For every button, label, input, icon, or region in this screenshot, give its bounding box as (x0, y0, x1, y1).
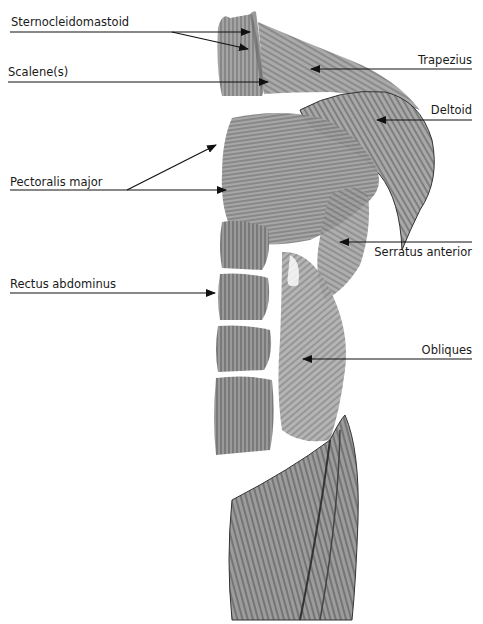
torso-illustration (0, 0, 483, 624)
rectus-abdominus-muscle (214, 221, 274, 455)
label-sternocleidomastoid: Sternocleidomastoid (11, 17, 129, 29)
label-deltoid: Deltoid (431, 105, 472, 117)
label-obliques: Obliques (422, 345, 472, 357)
label-scalene: Scalene(s) (8, 67, 68, 79)
label-serratus-anterior: Serratus anterior (374, 247, 472, 259)
neck-muscles (218, 11, 265, 96)
label-trapezius: Trapezius (418, 55, 472, 67)
muscle-diagram: Sternocleidomastoid Scalene(s) Pectorali… (0, 0, 483, 624)
label-pectoralis-major: Pectoralis major (10, 177, 103, 189)
pectoralis-leader-2 (127, 145, 216, 190)
label-rectus-abdominus: Rectus abdominus (10, 279, 116, 291)
